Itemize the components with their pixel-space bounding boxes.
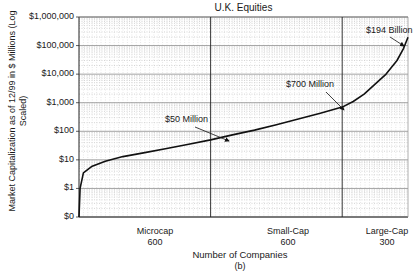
segment-count: 300 (352, 237, 416, 248)
annotation-194-billion: $194 Billion (366, 25, 413, 35)
segment-label-microcap: Microcap 600 (105, 226, 205, 248)
segment-label-smallcap: Small-Cap 600 (238, 226, 338, 248)
segment-name: Large-Cap (352, 226, 416, 237)
segment-count: 600 (238, 237, 338, 248)
segment-name: Microcap (105, 226, 205, 237)
annotation-700-million: $700 Million (286, 79, 334, 89)
segment-label-largecap: Large-Cap 300 (352, 226, 416, 248)
annotation-50-million: $50 Million (165, 114, 208, 124)
x-axis-label: Number of Companies (140, 249, 340, 260)
chart-subtitle: (b) (140, 261, 340, 271)
segment-count: 600 (105, 237, 205, 248)
segment-name: Small-Cap (238, 226, 338, 237)
